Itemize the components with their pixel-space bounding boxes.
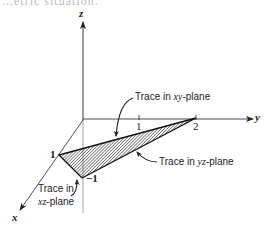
yz-trace-prefix: Trace in <box>159 156 198 167</box>
z-tick-label-neg1: −1 <box>86 173 98 184</box>
yz-trace-arrow <box>137 152 157 162</box>
x-tick-label-1: 1 <box>50 149 56 160</box>
xy-trace-arrow <box>116 98 133 136</box>
xy-trace-suffix: -plane <box>182 91 210 102</box>
xy-trace-label: Trace in xy-plane <box>135 92 210 102</box>
yz-trace-label: Trace in yz-plane <box>159 157 234 167</box>
cutoff-text-fragment: ...etric situation. <box>2 0 99 9</box>
xz-trace-suffix: -plane <box>46 196 74 207</box>
xz-trace-label-line2: xz-plane <box>38 197 74 207</box>
x-axis-label: x <box>12 212 18 223</box>
xy-trace-prefix: Trace in <box>135 91 174 102</box>
diagram-canvas: ...etric situation. z y x 1 2 1 −1 Trace… <box>0 0 271 229</box>
yz-trace-suffix: -plane <box>206 156 234 167</box>
y-tick-label-2: 2 <box>193 121 199 132</box>
z-axis-label: z <box>79 8 83 19</box>
yz-trace-var: yz <box>198 156 206 167</box>
y-tick-label-1: 1 <box>136 121 142 132</box>
y-axis-label: y <box>255 112 260 123</box>
trace-triangle <box>59 118 196 178</box>
xz-trace-label-line1: Trace in <box>38 184 74 194</box>
coordinate-diagram-svg <box>0 0 271 229</box>
